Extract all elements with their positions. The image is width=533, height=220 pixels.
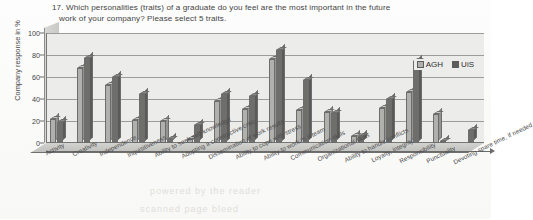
bar-face	[112, 77, 118, 143]
bar	[112, 77, 118, 143]
bar-top	[139, 91, 150, 94]
bar-top	[433, 111, 444, 114]
bar-side	[90, 52, 93, 140]
y-tick-40: 40	[32, 95, 40, 104]
legend-label-agh: AGH	[426, 60, 443, 69]
chart-title: 17. Which personalities (traits) of a gr…	[52, 2, 482, 24]
legend-label-uis: UiS	[461, 60, 474, 69]
legend-item-uis: UiS	[452, 60, 474, 69]
bar-top	[440, 138, 451, 141]
chart-legend: AGH UiS	[414, 59, 477, 70]
bar-face	[77, 68, 83, 143]
chart-title-line1: 17. Which personalities (traits) of a gr…	[52, 3, 390, 12]
bar-top	[221, 91, 232, 94]
bar	[276, 50, 282, 144]
bar	[84, 58, 90, 143]
y-tick-80: 80	[32, 51, 40, 60]
bar-face	[139, 94, 145, 144]
y-axis-ticks: 020406080100	[24, 28, 44, 144]
bar-group	[128, 33, 155, 143]
bar-side	[282, 44, 285, 141]
bar-group	[73, 33, 100, 143]
bar-group	[156, 33, 183, 143]
bar-group	[46, 33, 73, 143]
bar-face	[105, 85, 111, 143]
y-axis-label: Company response in %	[13, 1, 22, 121]
bar	[406, 92, 412, 143]
bar	[105, 85, 111, 143]
bar-group	[375, 33, 402, 143]
y-tick-60: 60	[32, 73, 40, 82]
legend-swatch-agh	[417, 61, 424, 68]
bar-top	[57, 119, 68, 122]
bar-top	[276, 47, 287, 50]
y-tick-20: 20	[32, 117, 40, 126]
bar	[440, 141, 446, 143]
bar-group	[101, 33, 128, 143]
bar	[413, 61, 419, 144]
page-bleed-ghost-1: powered by the reader	[150, 186, 261, 196]
bar-top	[194, 122, 205, 125]
bar	[139, 94, 145, 144]
legend-item-agh: AGH	[417, 60, 443, 69]
chart-title-line2: work of your company? Please select 5 tr…	[52, 13, 482, 24]
legend-swatch-uis	[452, 61, 459, 68]
bar-face	[433, 114, 439, 143]
bar-top	[50, 116, 61, 119]
bar-face	[413, 61, 419, 144]
bar-group	[347, 33, 374, 143]
bar	[468, 130, 474, 143]
y-tick-100: 100	[28, 29, 40, 38]
bar-group	[457, 33, 484, 143]
bar-face	[84, 58, 90, 143]
page-bleed-ghost-2: scanned page bleed	[140, 204, 239, 214]
bar-face	[406, 92, 412, 143]
bar-face	[276, 50, 282, 144]
bar-face	[440, 141, 446, 143]
bar-top	[84, 55, 95, 58]
bar-side	[145, 88, 148, 141]
x-axis-category-labels: ActivityCreativityIndependenceInquisitiv…	[24, 150, 494, 220]
bar-face	[50, 119, 56, 143]
bar-top	[303, 77, 314, 80]
bar-face	[468, 130, 474, 143]
bar	[77, 68, 83, 143]
bar-group	[429, 33, 456, 143]
bar	[433, 114, 439, 143]
bar	[50, 119, 56, 143]
bar-side	[118, 71, 121, 140]
